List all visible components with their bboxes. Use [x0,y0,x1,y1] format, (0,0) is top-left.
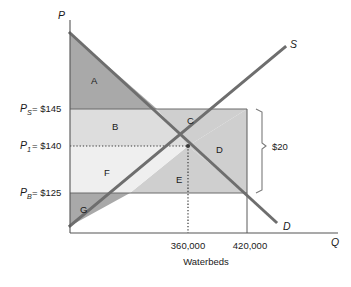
demand-curve-label: D [283,220,291,232]
x-axis-symbol-label: Q [331,236,339,248]
region-label-c: C [187,115,194,126]
chart-canvas: P Q P S = $145 P 1 = $140 P B = $125 360… [0,0,351,287]
region-label-f: F [104,167,110,178]
tax-wedge-bracket [256,109,266,193]
p1-value: = $140 [32,140,61,151]
region-label-b: B [112,121,118,132]
bracket-shape [256,109,266,193]
region-label-g: G [80,204,87,215]
region-label-a: A [91,75,98,86]
region-label-e: E [176,174,182,185]
y-tick-label-ps: P S = $145 [20,102,61,117]
shaded-regions [70,33,247,226]
region-label-d: D [216,144,223,155]
y-axis-symbol-label: P [58,9,65,21]
ps-symbol: P [20,102,27,114]
supply-demand-figure: P Q P S = $145 P 1 = $140 P B = $125 360… [0,0,351,287]
y-tick-label-pb: P B = $125 [20,186,61,201]
pb-symbol: P [20,186,27,198]
tax-amount-label: $20 [272,141,288,152]
region-g-shape [70,193,130,226]
p1-subscript: 1 [27,145,31,154]
ps-value: = $145 [32,103,61,114]
x-tick-label-420000: 420,000 [233,240,267,251]
pb-value: = $125 [32,187,61,198]
equilibrium-point [186,144,190,148]
x-axis-caption: Waterbeds [183,256,229,267]
supply-curve-label: S [290,38,297,50]
x-tick-label-360000: 360,000 [171,240,205,251]
p1-symbol: P [20,139,27,151]
y-tick-label-p1: P 1 = $140 [20,139,61,154]
